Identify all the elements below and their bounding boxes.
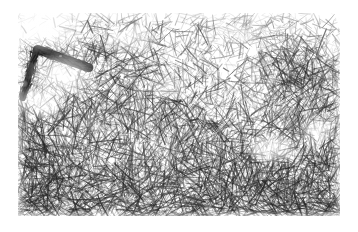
page-root: [0, 0, 358, 232]
micrograph-canvas: [18, 13, 340, 216]
fibrous-network-micrograph: [18, 13, 340, 216]
